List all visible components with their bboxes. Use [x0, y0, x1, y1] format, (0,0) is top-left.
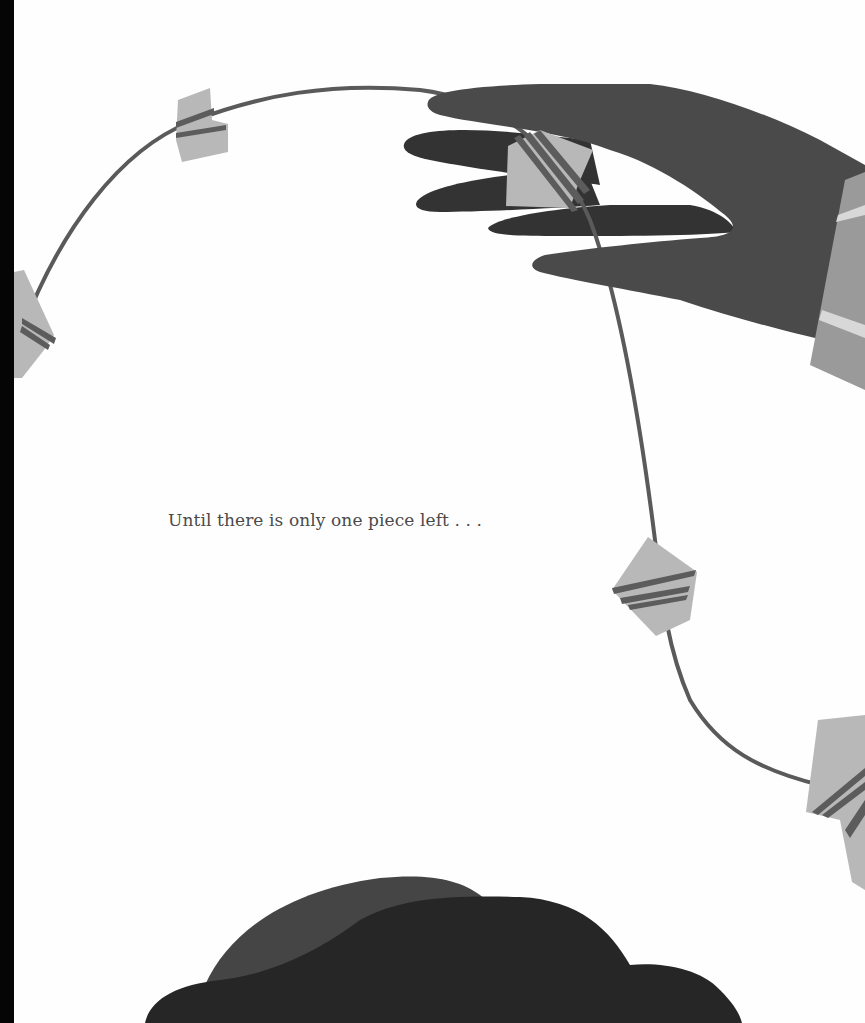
- necklace-piece-1: [176, 88, 228, 162]
- necklace-piece-5: [806, 715, 865, 890]
- book-page: Until there is only one piece left . . .: [0, 0, 865, 1023]
- story-caption: Until there is only one piece left . . .: [168, 510, 482, 530]
- necklace-piece-2: [14, 270, 56, 378]
- necklace-piece-4: [612, 537, 697, 636]
- child-head-hair: [145, 876, 742, 1023]
